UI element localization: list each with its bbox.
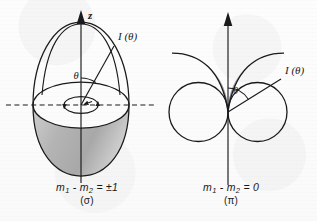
caption-sigma-equation: m1 - m2 = ±1 [14,181,160,195]
caption-sigma-value: = ±1 [93,181,118,193]
caption-pi: m1 - m2 = 0 (π) [158,181,304,207]
z-axis-arrowhead [77,10,86,24]
caption-pi-equation: m1 - m2 = 0 [158,181,304,195]
rotation-arrow-inner [84,101,92,104]
theta-label-sigma: θ [74,70,79,81]
caption-pi-m1: m [203,181,212,193]
lobe-left [169,83,228,142]
caption-sigma: m1 - m2 = ±1 (σ) [14,181,160,207]
panel-sigma: θ I (θ) z [6,9,156,183]
theta-label-pi: θ [233,85,238,96]
caption-sigma-symbol: (σ) [14,195,160,207]
caption-pi-value: = 0 [240,181,259,193]
intensity-label-sigma: I (θ) [117,30,137,43]
caption-pi-minus-m: - m [217,181,236,193]
caption-pi-symbol: (π) [158,195,304,207]
radiation-pattern-figure: θ I (θ) z θ [0,0,317,221]
intensity-label-pi: I (θ) [284,64,304,77]
intensity-vector-sigma [81,46,114,105]
z-axis-label: z [87,9,93,21]
pi-axis-arrowhead [224,12,233,26]
panel-pi: θ I (θ) [169,12,304,185]
caption-sigma-minus-m: - m [70,181,89,193]
caption-sigma-m1: m [56,181,65,193]
